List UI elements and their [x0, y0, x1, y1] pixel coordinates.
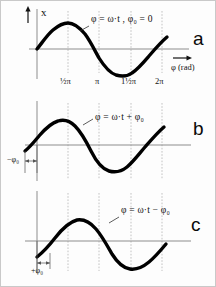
equation-b: φ = ω·t + φ₀ — [95, 113, 144, 123]
sine-curve-c — [37, 220, 166, 269]
y-axis-label: x — [41, 7, 47, 18]
sine-curve-b — [25, 120, 164, 172]
equation-a: φ = ω·t , φ₀ = 0 — [91, 15, 153, 25]
phase-offset-label-b: −φ₀ — [7, 156, 19, 164]
equation-c: φ = ω·t − φ₀ — [121, 206, 170, 216]
panel-c — [25, 191, 191, 273]
tick-label-two-pi-a: 2π — [155, 77, 164, 86]
x-axis-arrow-a — [173, 55, 192, 60]
y-axis-arrow-a — [25, 6, 30, 23]
panel-letter-c: c — [191, 215, 201, 234]
equation-leader-c — [109, 217, 119, 223]
phase-offset-label-c: +φ₀ — [31, 267, 43, 275]
tick-label-three-half-pi-a: 1½π — [121, 77, 136, 86]
equation-leader-b — [83, 119, 93, 125]
panel-letter-a: a — [193, 29, 204, 48]
tick-label-half-pi-a: ½π — [60, 77, 71, 86]
panel-letter-b: b — [193, 119, 204, 138]
figure-canvas — [1, 1, 216, 287]
x-axis-label: φ (rad) — [171, 63, 195, 72]
phase-shift-figure: x φ = ω·t , φ₀ = 0 a φ (rad) ½π π 1½π 2π… — [0, 0, 216, 287]
tick-label-pi-a: π — [95, 77, 99, 86]
sine-curve-a — [37, 23, 167, 76]
